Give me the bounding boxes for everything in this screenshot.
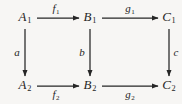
- edge-label-g2-base: g: [125, 88, 131, 100]
- edge-label-a-base: a: [14, 46, 20, 58]
- node-C1-subscript: 1: [171, 17, 176, 26]
- edge-label-a: a: [14, 47, 20, 58]
- edge-label-c-base: c: [174, 46, 179, 58]
- node-C2-base: C: [162, 77, 171, 92]
- node-C2: C2: [162, 78, 176, 94]
- edge-label-f1: f1: [52, 3, 59, 16]
- edge-label-f2: f2: [52, 89, 59, 102]
- node-A1-base: A: [19, 9, 27, 24]
- edge-label-f2-subscript: 2: [56, 94, 60, 102]
- node-B1-base: B: [84, 9, 92, 24]
- edge-label-b: b: [79, 47, 85, 58]
- edge-label-g1: g1: [125, 3, 135, 16]
- edge-label-c: c: [174, 47, 179, 58]
- node-B2: B2: [84, 78, 97, 94]
- node-A1: A1: [19, 10, 32, 26]
- node-C1-base: C: [162, 9, 171, 24]
- node-B2-subscript: 2: [92, 85, 97, 94]
- commutative-diagram: A1 B1 C1 A2 B2 C2 f1 g1 f2 g2 a b c: [0, 0, 182, 104]
- node-A2: A2: [19, 78, 32, 94]
- node-B1-subscript: 1: [92, 17, 97, 26]
- edge-label-g2-subscript: 2: [131, 94, 135, 102]
- node-B2-base: B: [84, 77, 92, 92]
- edge-label-f1-subscript: 1: [56, 8, 60, 16]
- edge-label-g2: g2: [125, 89, 135, 102]
- node-B1: B1: [84, 10, 97, 26]
- edge-label-g1-base: g: [125, 2, 131, 14]
- node-C1: C1: [162, 10, 176, 26]
- edge-label-g1-subscript: 1: [131, 8, 135, 16]
- node-A2-base: A: [19, 77, 27, 92]
- node-C2-subscript: 2: [171, 85, 176, 94]
- edge-label-b-base: b: [79, 46, 85, 58]
- node-A2-subscript: 2: [27, 85, 32, 94]
- node-A1-subscript: 1: [27, 17, 32, 26]
